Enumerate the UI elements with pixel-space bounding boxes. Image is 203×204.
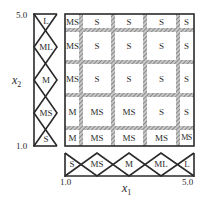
x2-max-tick: 5.0	[16, 11, 27, 20]
x2-set-label-S: S	[36, 135, 56, 144]
rule-cell-r5c2: MS	[83, 130, 111, 145]
x1-max-tick: 5.0	[182, 178, 193, 187]
x2-axis-title: x2	[12, 74, 21, 89]
rule-cell-r1c4: S	[147, 15, 176, 28]
rule-cell-r2c2: S	[83, 32, 111, 60]
rule-cell-r3c4: S	[147, 64, 176, 93]
x1-set-label-MS: MS	[86, 160, 108, 169]
x1-set-label-ML: ML	[150, 160, 172, 169]
rule-cell-r4c1: M	[66, 97, 79, 126]
x1-set-label-L: L	[181, 160, 193, 169]
rule-cell-r2c4: S	[147, 32, 176, 60]
rule-cell-r1c5: S	[180, 15, 193, 28]
x2-set-label-MS: MS	[35, 109, 57, 118]
rule-cell-r3c3: S	[115, 64, 143, 93]
x1-min-tick: 1.0	[60, 178, 71, 187]
rule-cell-r4c3: MS	[115, 97, 143, 126]
rule-cell-r5c5: MS	[180, 130, 193, 145]
x2-set-label-ML: ML	[35, 43, 57, 52]
x1-set-label-M: M	[119, 160, 139, 169]
rule-cell-r3c1: MS	[66, 64, 79, 93]
rule-cell-r1c2: S	[83, 15, 111, 28]
x2-set-label-M: M	[36, 76, 56, 85]
rule-cell-r5c1: M	[66, 130, 79, 145]
rule-cell-r2c3: S	[115, 32, 143, 60]
x2-set-label-L: L	[36, 17, 56, 26]
rule-cell-r1c1: MS	[66, 15, 79, 28]
rule-cell-r2c1: MS	[66, 32, 79, 60]
rule-cell-r5c4: MS	[147, 130, 176, 145]
rule-cell-r4c2: MS	[83, 97, 111, 126]
x1-axis-title: x1	[122, 182, 131, 197]
rule-cell-r4c5: S	[180, 97, 193, 126]
rule-cell-r3c5: S	[180, 64, 193, 93]
x1-set-label-S: S	[66, 160, 78, 169]
rule-cell-r3c2: S	[83, 64, 111, 93]
rule-cell-r1c3: S	[115, 15, 143, 28]
rule-cell-r4c4: S	[147, 97, 176, 126]
rule-cell-r2c5: S	[180, 32, 193, 60]
x2-min-tick: 1.0	[16, 142, 27, 151]
rule-cell-r5c3: MS	[115, 130, 143, 145]
